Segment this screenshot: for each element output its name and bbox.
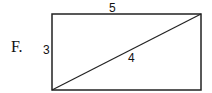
figure: F. 5 3 4	[0, 0, 212, 93]
top-side-label: 5	[109, 1, 116, 15]
option-label: F.	[11, 38, 23, 55]
diagonal-label: 4	[128, 51, 135, 65]
diagonal-line	[52, 14, 201, 90]
left-side-label: 3	[43, 43, 50, 57]
